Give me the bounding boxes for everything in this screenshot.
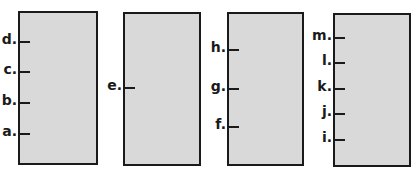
tick-label: e. <box>102 78 122 92</box>
tick-mark <box>227 126 239 128</box>
tick-mark <box>18 133 30 135</box>
tick-mark <box>333 113 345 115</box>
tick-mark <box>227 88 239 90</box>
tick-label: k. <box>312 79 332 93</box>
tick-mark <box>333 62 345 64</box>
tick-mark <box>333 139 345 141</box>
tick-label: m. <box>312 28 332 42</box>
tick-label: j. <box>312 104 332 118</box>
tick-mark <box>333 88 345 90</box>
tick-mark <box>123 87 135 89</box>
tick-label: f. <box>206 117 226 131</box>
box-1 <box>18 11 98 165</box>
tick-label: l. <box>312 53 332 67</box>
tick-label: b. <box>0 93 17 107</box>
tick-label: a. <box>0 124 17 138</box>
tick-mark <box>18 41 30 43</box>
tick-mark <box>18 71 30 73</box>
tick-label: h. <box>206 40 226 54</box>
tick-mark <box>18 102 30 104</box>
box-2 <box>123 12 201 166</box>
tick-label: g. <box>206 79 226 93</box>
tick-mark <box>227 49 239 51</box>
tick-label: d. <box>0 32 17 46</box>
tick-mark <box>333 37 345 39</box>
tick-label: c. <box>0 62 17 76</box>
tick-label: i. <box>312 130 332 144</box>
